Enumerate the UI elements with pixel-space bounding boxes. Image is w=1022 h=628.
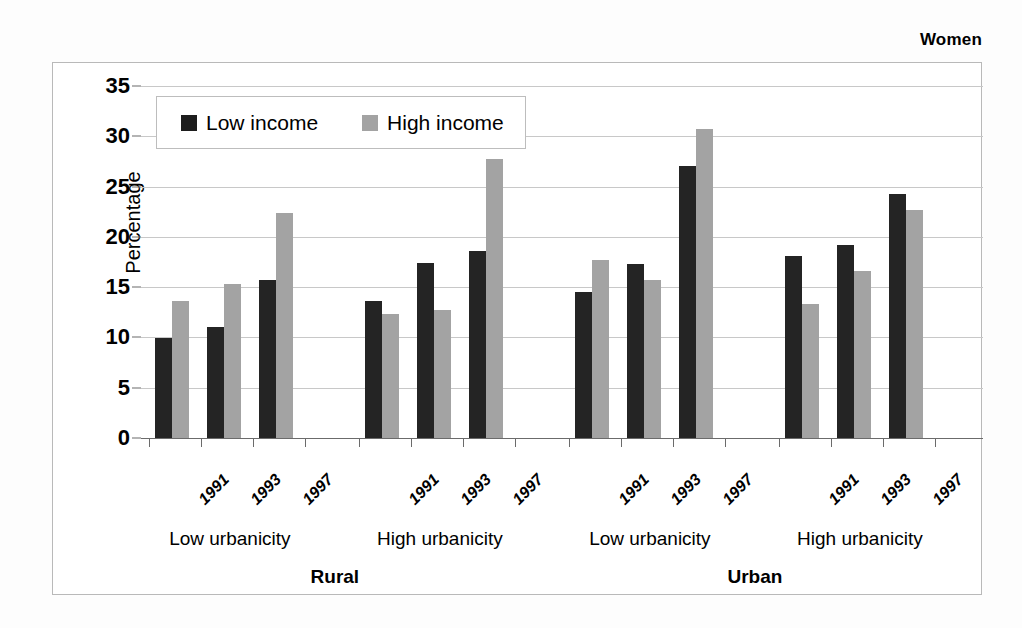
x-axis-urbanicity-label: High urbanicity <box>377 528 503 550</box>
x-tick-mark <box>463 438 464 447</box>
legend-label: High income <box>387 111 504 135</box>
y-tick-mark-25 <box>132 186 141 187</box>
gridline-35 <box>141 86 983 87</box>
bar-low-income <box>207 327 224 438</box>
legend-swatch-high-icon <box>362 115 378 131</box>
y-tick-label-0: 0 <box>118 427 130 449</box>
x-tick-mark <box>305 438 306 447</box>
bar-high-income <box>592 260 609 438</box>
figure-frame: Percentage 05101520253035 Low incomeHigh… <box>52 62 982 595</box>
bar-high-income <box>802 304 819 438</box>
bar-low-income <box>627 264 644 438</box>
x-axis-urbanicity-label: High urbanicity <box>797 528 923 550</box>
y-tick-mark-15 <box>132 287 141 288</box>
chart-legend: Low incomeHigh income <box>156 96 526 149</box>
x-tick-mark <box>725 438 726 447</box>
x-axis-year-label: 1997 <box>509 471 547 509</box>
x-axis-year-label: 1993 <box>247 471 285 509</box>
x-axis-region-label: Urban <box>727 566 782 588</box>
bar-high-income <box>172 301 189 438</box>
y-tick-label-20: 20 <box>106 226 130 248</box>
bar-high-income <box>382 314 399 438</box>
x-tick-mark <box>673 438 674 447</box>
x-tick-mark <box>779 438 780 447</box>
x-tick-mark <box>621 438 622 447</box>
y-tick-label-30: 30 <box>106 125 130 147</box>
legend-label: Low income <box>206 111 318 135</box>
y-tick-label-10: 10 <box>106 326 130 348</box>
legend-swatch-low-icon <box>181 115 197 131</box>
bar-low-income <box>365 301 382 438</box>
y-tick-label-15: 15 <box>106 276 130 298</box>
bar-low-income <box>259 280 276 438</box>
bar-high-income <box>434 310 451 438</box>
bar-high-income <box>906 210 923 438</box>
y-tick-label-35: 35 <box>106 75 130 97</box>
gridline-0 <box>141 438 983 439</box>
x-axis-year-label: 1997 <box>299 471 337 509</box>
x-axis-urbanicity-label: Low urbanicity <box>169 528 290 550</box>
bar-high-income <box>224 284 241 438</box>
bar-low-income <box>469 251 486 438</box>
x-tick-mark <box>359 438 360 447</box>
x-tick-mark <box>883 438 884 447</box>
bar-low-income <box>155 338 172 438</box>
x-tick-mark <box>411 438 412 447</box>
x-axis-year-label: 1993 <box>877 471 915 509</box>
y-tick-mark-5 <box>132 387 141 388</box>
y-tick-mark-0 <box>132 438 141 439</box>
legend-entry-low: Low income <box>181 111 318 135</box>
bar-low-income <box>837 245 854 438</box>
gridline-25 <box>141 187 983 188</box>
y-tick-mark-20 <box>132 236 141 237</box>
x-tick-mark <box>149 438 150 447</box>
x-tick-mark <box>569 438 570 447</box>
x-tick-mark <box>253 438 254 447</box>
x-tick-mark <box>201 438 202 447</box>
bar-low-income <box>889 194 906 438</box>
bar-high-income <box>644 280 661 438</box>
bar-low-income <box>785 256 802 438</box>
bar-low-income <box>417 263 434 438</box>
x-tick-mark <box>515 438 516 447</box>
y-tick-mark-10 <box>132 337 141 338</box>
x-axis-year-label: 1993 <box>667 471 705 509</box>
x-axis-urbanicity-label: Low urbanicity <box>589 528 710 550</box>
x-tick-mark <box>831 438 832 447</box>
x-tick-mark <box>935 438 936 447</box>
gridline-20 <box>141 237 983 238</box>
x-axis-year-label: 1997 <box>929 471 967 509</box>
bar-high-income <box>696 129 713 438</box>
chart-page: Women Percentage 05101520253035 Low inco… <box>0 0 1022 628</box>
x-axis-year-label: 1991 <box>825 471 863 509</box>
y-tick-label-5: 5 <box>118 377 130 399</box>
y-tick-mark-35 <box>132 86 141 87</box>
y-tick-label-25: 25 <box>106 176 130 198</box>
bar-high-income <box>486 159 503 438</box>
x-axis-region-label: Rural <box>311 566 360 588</box>
x-axis-year-label: 1993 <box>457 471 495 509</box>
x-axis-year-label: 1991 <box>405 471 443 509</box>
page-title: Women <box>920 30 982 50</box>
x-axis-year-label: 1991 <box>195 471 233 509</box>
legend-entry-high: High income <box>362 111 504 135</box>
x-axis-year-label: 1997 <box>719 471 757 509</box>
bar-high-income <box>854 271 871 438</box>
bar-low-income <box>679 166 696 438</box>
bar-high-income <box>276 213 293 438</box>
bar-low-income <box>575 292 592 438</box>
x-axis-year-label: 1991 <box>615 471 653 509</box>
y-tick-mark-30 <box>132 136 141 137</box>
